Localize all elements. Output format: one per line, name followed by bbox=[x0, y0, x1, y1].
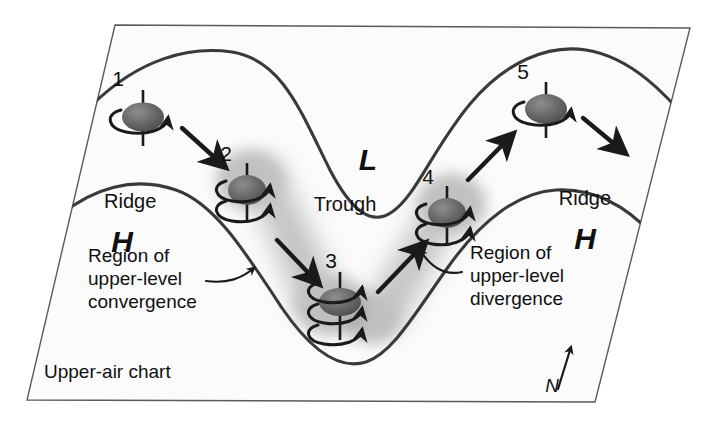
diagram-stage: 1 2 3 bbox=[0, 0, 713, 428]
compass-north-label: N bbox=[545, 375, 559, 396]
spin-marker-label-4: 4 bbox=[422, 165, 434, 188]
trough-label: Trough bbox=[314, 193, 377, 215]
convergence-line-3: convergence bbox=[88, 291, 197, 312]
spin-marker-label-3: 3 bbox=[325, 249, 337, 272]
convergence-line-1: Region of bbox=[88, 245, 170, 266]
spin-marker-label-2: 2 bbox=[220, 142, 232, 165]
spin-marker-label-5: 5 bbox=[517, 60, 529, 83]
low-label: L bbox=[359, 143, 377, 176]
divergence-line-3: divergence bbox=[470, 288, 563, 309]
divergence-line-1: Region of bbox=[470, 242, 552, 263]
upper-air-chart-caption: Upper-air chart bbox=[44, 361, 171, 382]
spin-marker-label-1: 1 bbox=[112, 67, 124, 90]
high-label-right: H bbox=[574, 222, 597, 255]
spin-ball-1 bbox=[122, 103, 164, 132]
ridge-label-left: Ridge bbox=[104, 190, 156, 212]
convergence-line-2: upper-level bbox=[88, 268, 182, 289]
divergence-line-2: upper-level bbox=[470, 265, 564, 286]
ridge-label-right: Ridge bbox=[559, 187, 611, 209]
upper-air-chart-svg: 1 2 3 bbox=[0, 0, 713, 428]
spin-ball-5 bbox=[525, 94, 567, 124]
